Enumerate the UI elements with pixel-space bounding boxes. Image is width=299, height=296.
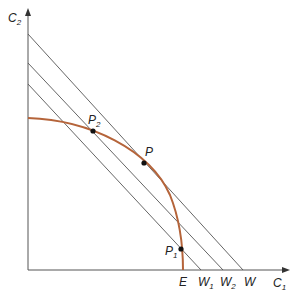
x-axis-label: C1 [273, 276, 286, 292]
label-e: E [179, 275, 188, 289]
label-w1: W1 [198, 275, 214, 291]
diagram: P P2 P1 C2 C1 E W1 W2 W [0, 0, 299, 296]
y-axis-arrow-icon [25, 8, 31, 16]
budget-line-w2 [28, 63, 223, 270]
point-p2 [90, 128, 95, 133]
point-p [141, 160, 146, 165]
x-axis-arrow-icon [282, 267, 290, 273]
label-w2: W2 [220, 275, 236, 291]
budget-line-w1 [28, 84, 201, 270]
label-p1: P1 [165, 244, 177, 260]
budget-line-w [28, 34, 243, 270]
label-w: W [244, 275, 257, 289]
label-p: P [145, 145, 153, 159]
label-p2: P2 [88, 113, 101, 129]
frontier-curve [28, 118, 183, 270]
point-p1 [178, 246, 183, 251]
y-axis-label: C2 [8, 11, 22, 27]
